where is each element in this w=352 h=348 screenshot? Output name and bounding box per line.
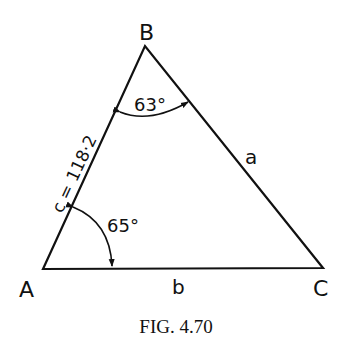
- vertex-label-c: C: [313, 276, 328, 301]
- vertex-label-b: B: [139, 20, 154, 45]
- side-label-b: b: [172, 275, 185, 299]
- side-label-a: a: [245, 145, 257, 169]
- angle-label-a: 65°: [107, 215, 139, 236]
- triangle-figure: B A C a b c = 118·2 63° 65° FIG. 4.70: [0, 0, 352, 348]
- triangle-diagram: B A C a b c = 118·2 63° 65° FIG. 4.70: [0, 0, 352, 348]
- angle-label-b: 63°: [134, 94, 166, 115]
- vertex-label-a: A: [19, 277, 34, 302]
- figure-caption: FIG. 4.70: [139, 316, 212, 337]
